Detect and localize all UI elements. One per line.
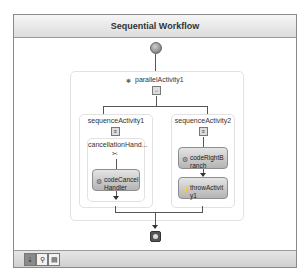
parallel-activity[interactable]: ✱ parallelActivity1 ⇔ sequenceActivity1 … [70, 71, 244, 221]
sequence-icon: ≡ [111, 127, 120, 136]
connector-line [103, 106, 207, 107]
connector-line [116, 159, 117, 169]
view-cancel-handlers-button[interactable]: ⚲ [36, 253, 48, 266]
parallel-icon: ⇔ [152, 86, 161, 95]
view-toolbar: ⇣ ⚲ ▤ [14, 250, 296, 267]
connector-line [203, 137, 204, 147]
parallel-status-icon: ✱ [126, 77, 131, 84]
connector-line [155, 54, 156, 71]
activity-label-line1: codeRightB [190, 154, 224, 161]
arrow-icon [113, 196, 119, 200]
designer-title: Sequential Workflow [14, 15, 296, 38]
code-activity-icon: ⚙ [182, 156, 188, 164]
sequence-activity-2[interactable]: sequenceActivity2 ≡ ⚙ codeRightBranch ⚡ … [171, 114, 235, 208]
cancellation-handler[interactable]: cancellationHand... ✂ ⚙ codeCancelHandle… [87, 138, 145, 202]
stop-square-icon[interactable] [150, 231, 161, 242]
connector-line [115, 212, 203, 213]
connector-line [103, 106, 104, 114]
start-circle-icon[interactable] [150, 42, 162, 54]
activity-label-line1: throwActivit [190, 184, 223, 191]
view-fault-handlers-button[interactable]: ▤ [48, 253, 60, 266]
cancel-handler-icon: ✂ [112, 150, 118, 158]
activity-label-line1: codeCancel [104, 176, 138, 183]
activity-label-line2: ranch [190, 162, 206, 169]
code-activity-icon: ⚙ [96, 178, 102, 186]
activity-label-line2: y1 [190, 192, 197, 199]
sequence-activity-2-label: sequenceActivity2 [172, 117, 234, 124]
sequence-activity-1[interactable]: sequenceActivity1 ≡ cancellationHand... … [79, 114, 153, 208]
throw-activity[interactable]: ⚡ throwActivity1 [178, 177, 228, 199]
arrow-icon [152, 225, 158, 229]
code-cancel-handler-activity[interactable]: ⚙ codeCancelHandler [92, 169, 140, 191]
cancellation-handler-label: cancellationHand... [88, 141, 144, 148]
sequence-icon: ≡ [199, 127, 208, 136]
connector-line [156, 96, 157, 106]
parallel-activity-label: parallelActivity1 [135, 76, 184, 83]
code-right-branch-activity[interactable]: ⚙ codeRightBranch [178, 147, 228, 169]
connector-line [207, 106, 208, 114]
sequence-activity-1-label: sequenceActivity1 [80, 117, 152, 124]
connector-line [155, 212, 156, 226]
workflow-designer: Sequential Workflow ✱ parallelActivity1 … [13, 14, 297, 268]
view-workflow-button[interactable]: ⇣ [24, 253, 36, 266]
activity-label-line2: Handler [104, 184, 127, 191]
